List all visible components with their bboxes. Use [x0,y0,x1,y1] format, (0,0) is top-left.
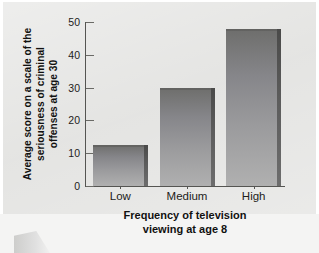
y-axis-line [85,22,86,186]
bar-medium [160,88,215,186]
plot-area: 01020304050 LowMediumHigh [85,22,285,186]
x-tick-label-high: High [242,190,266,202]
y-tick-label: 0 [74,180,80,192]
x-tick-label-low: Low [110,190,131,202]
y-tick-mark [86,186,94,187]
bar-top-edge [160,88,215,90]
x-tick-mark [187,186,188,189]
bar-right-edge [211,88,215,186]
y-tick-label: 20 [68,114,80,126]
x-axis-title-line-2: viewing at age 8 [143,223,227,235]
bar-right-edge [277,29,281,186]
y-tick-mark [86,55,94,56]
x-tick-mark [120,186,121,189]
y-tick-label: 40 [68,49,80,61]
y-tick-label: 10 [68,147,80,159]
x-tick-mark [254,186,255,189]
x-axis-title: Frequency of television viewing at age 8 [85,209,285,236]
y-axis-title-line-1: Average score on a scale of the [22,28,33,181]
y-tick-mark [86,120,94,121]
chart-figure: Average score on a scale of the seriousn… [0,0,319,253]
bar-top-edge [226,29,281,31]
x-axis-title-line-1: Frequency of television [124,209,247,221]
y-axis-title-line-2: seriousness of criminal [35,47,46,161]
bar-low [93,145,148,186]
y-tick-label: 30 [68,82,80,94]
x-axis-line [85,186,285,187]
bar-top-edge [93,145,148,147]
y-axis-title: Average score on a scale of the seriousn… [18,22,62,186]
y-tick-mark [86,22,94,23]
bar-right-edge [144,145,148,186]
y-tick-label: 50 [68,16,80,28]
bar-high [226,29,281,186]
x-tick-label-medium: Medium [167,190,208,202]
y-tick-mark [86,88,94,89]
y-axis-title-line-3: offenses at age 30 [48,60,59,148]
